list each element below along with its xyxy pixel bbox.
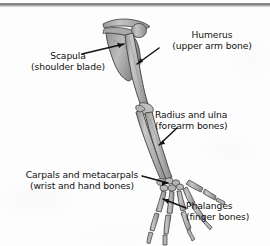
- label-radius-ulna-line1: Radius and ulna: [155, 109, 227, 120]
- label-carpals-line1: Carpals and metacarpals: [26, 169, 139, 180]
- label-humerus: Humerus (upper arm bone): [160, 30, 264, 51]
- label-scapula-line1: Scapula: [50, 50, 86, 61]
- label-radius-ulna: Radius and ulna (forearm bones): [155, 110, 267, 131]
- label-carpals-metacarpals: Carpals and metacarpals (wrist and hand …: [14, 170, 150, 191]
- label-carpals-line2: (wrist and hand bones): [14, 181, 150, 192]
- label-scapula-line2: (shoulder blade): [14, 62, 122, 73]
- label-scapula: Scapula (shoulder blade): [14, 51, 122, 72]
- label-phalanges-line2: (finger bones): [186, 212, 270, 223]
- label-phalanges: Phalanges (finger bones): [186, 201, 270, 222]
- leader-humerus-arrow: [137, 58, 143, 64]
- leader-phalanges-arrow: [163, 199, 169, 204]
- label-radius-ulna-line2: (forearm bones): [155, 121, 267, 132]
- figure-canvas: Scapula (shoulder blade) Humerus (upper …: [0, 0, 270, 246]
- label-phalanges-line1: Phalanges: [186, 200, 232, 211]
- label-humerus-line2: (upper arm bone): [160, 41, 264, 52]
- label-humerus-line1: Humerus: [191, 29, 232, 40]
